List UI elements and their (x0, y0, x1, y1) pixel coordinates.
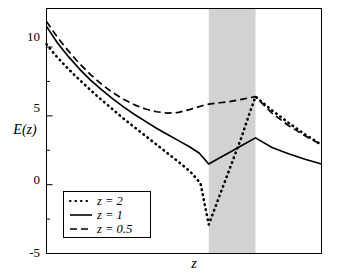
legend-item-z2: z = 2 (64, 194, 150, 208)
legend-label-z1: z = 1 (93, 208, 123, 223)
shaded-band-group (209, 9, 256, 254)
legend-item-z1: z = 1 (64, 208, 150, 222)
legend-box: z = 2 z = 1 z = 0.5 (63, 191, 151, 238)
legend-swatch-dotted (69, 195, 93, 207)
y-axis-title: E(z) (4, 122, 46, 138)
shaded-band-rect (209, 9, 256, 254)
figure-container: 10 5 0 -5 E(z) z z = 2 z = 1 z = 0.5 (0, 0, 338, 278)
legend-label-z2: z = 2 (93, 194, 123, 209)
y-tick-label-10: 10 (14, 29, 40, 45)
curve-z-0-5 (47, 22, 322, 145)
y-axis-ticks-group (47, 47, 53, 253)
curve-z-1 (47, 26, 322, 164)
legend-item-z05: z = 0.5 (64, 222, 150, 236)
y-tick-label-0: 0 (14, 172, 40, 188)
legend-label-z05: z = 0.5 (93, 222, 132, 237)
chart-plot-area (0, 0, 338, 278)
legend-swatch-dashed (69, 223, 93, 235)
x-axis-title: z (174, 256, 214, 272)
legend-swatch-solid (69, 209, 93, 221)
y-tick-label-minus-5: -5 (14, 245, 40, 261)
y-tick-label-5: 5 (14, 100, 40, 116)
